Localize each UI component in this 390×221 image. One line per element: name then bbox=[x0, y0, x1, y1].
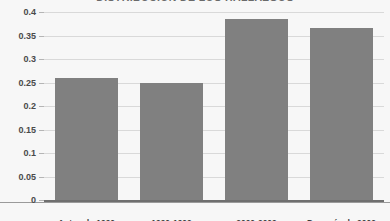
y-axis-tick-mark bbox=[39, 59, 44, 60]
y-axis-tick-label: 0.2 bbox=[0, 101, 36, 111]
gridline bbox=[44, 12, 384, 13]
y-axis-tick-mark bbox=[39, 153, 44, 154]
x-axis-category-label: 1990-1999 bbox=[151, 218, 192, 221]
x-axis-category-label: Después de 2009 bbox=[307, 218, 376, 221]
y-axis-tick-label: 0.25 bbox=[0, 78, 36, 88]
y-axis-tick-mark bbox=[39, 83, 44, 84]
plot-area: 00.050.10.150.20.250.30.350.4Antes de 19… bbox=[44, 12, 384, 200]
y-axis-tick-mark bbox=[39, 130, 44, 131]
x-axis-category-label: 2000-2009 bbox=[236, 218, 277, 221]
bar-chart: DISTRIBUCION DE LOS HALLAZGOS 00.050.10.… bbox=[0, 0, 390, 221]
y-axis-tick-mark bbox=[39, 200, 44, 201]
y-axis-tick-label: 0.4 bbox=[0, 7, 36, 17]
y-axis-tick-mark bbox=[39, 12, 44, 13]
y-axis-tick-label: 0.15 bbox=[0, 125, 36, 135]
y-axis-tick-mark bbox=[39, 177, 44, 178]
x-axis-baseline bbox=[44, 200, 384, 202]
bar bbox=[55, 78, 118, 200]
y-axis-tick-label: 0.05 bbox=[0, 172, 36, 182]
x-axis-category-label: Antes de 1990 bbox=[58, 218, 115, 221]
y-axis-tick-label: 0 bbox=[0, 195, 36, 205]
y-axis-tick-mark bbox=[39, 106, 44, 107]
y-axis-tick-mark bbox=[39, 36, 44, 37]
y-axis-tick-label: 0.3 bbox=[0, 54, 36, 64]
y-axis-tick-label: 0.35 bbox=[0, 31, 36, 41]
bar bbox=[310, 28, 373, 200]
x-axis-rule bbox=[0, 202, 390, 203]
chart-title: DISTRIBUCION DE LOS HALLAZGOS bbox=[0, 0, 390, 3]
y-axis-tick-label: 0.1 bbox=[0, 148, 36, 158]
bar bbox=[140, 83, 203, 201]
bar bbox=[225, 19, 288, 200]
